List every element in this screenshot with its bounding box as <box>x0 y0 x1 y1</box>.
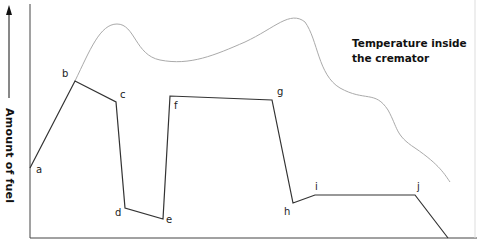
arrow-up-icon <box>6 5 12 98</box>
point-label-b: b <box>62 68 68 79</box>
fuel-line <box>30 81 448 238</box>
point-label-c: c <box>120 89 126 100</box>
temperature-legend: Temperature inside the cremator <box>352 36 472 66</box>
point-label-a: a <box>36 164 42 175</box>
point-label-h: h <box>284 206 290 217</box>
y-axis-label: Amount of fuel <box>2 108 16 204</box>
legend-line-2: the cremator <box>352 51 472 66</box>
point-label-g: g <box>277 86 283 97</box>
point-label-f: f <box>174 100 178 111</box>
point-label-d: d <box>115 207 121 218</box>
point-label-e: e <box>166 214 172 225</box>
legend-line-1: Temperature inside <box>352 36 472 51</box>
point-label-i: i <box>315 181 318 192</box>
point-label-j: j <box>417 181 420 192</box>
